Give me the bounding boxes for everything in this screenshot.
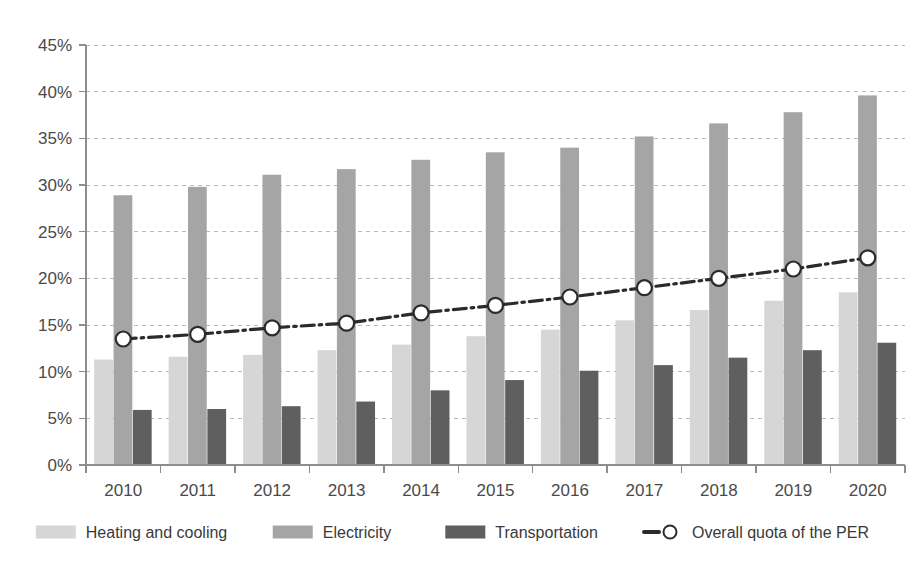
x-axis-tick-label: 2012 (253, 481, 291, 500)
bar-group (690, 123, 747, 465)
bar (654, 365, 673, 465)
y-axis-tick-label: 45% (38, 36, 72, 55)
bar (560, 148, 579, 465)
y-axis-tick-label: 30% (38, 176, 72, 195)
bar (318, 350, 337, 465)
legend-label: Overall quota of the PER (692, 524, 869, 541)
bar (94, 360, 113, 465)
chart-legend: Heating and coolingElectricityTransporta… (36, 524, 869, 541)
y-axis-tick-label: 20% (38, 269, 72, 288)
x-axis-tick-label: 2010 (104, 481, 142, 500)
y-axis-tick-label: 0% (47, 456, 72, 475)
chart-canvas: 0%5%10%15%20%25%30%35%40%45% 20102011201… (0, 0, 921, 569)
bar-group (764, 112, 821, 465)
bar (392, 345, 411, 465)
y-axis-tick-label: 35% (38, 129, 72, 148)
x-axis-tick-label: 2017 (625, 481, 663, 500)
quota-data-point (414, 305, 429, 320)
bar (114, 195, 133, 465)
bar (466, 336, 485, 465)
legend-item[interactable]: Electricity (273, 524, 391, 541)
x-axis-tick-label: 2019 (774, 481, 812, 500)
quota-data-point (116, 332, 131, 347)
bar (803, 350, 822, 465)
bar-group (839, 95, 896, 465)
bar-series-group (94, 95, 896, 465)
x-axis-tick-label: 2018 (700, 481, 738, 500)
bar (690, 310, 709, 465)
bar (729, 358, 748, 465)
bar (541, 330, 560, 465)
x-axis (86, 465, 905, 473)
y-axis-tick-label: 40% (38, 83, 72, 102)
bar (431, 390, 450, 465)
bar-group (94, 195, 151, 465)
bar (615, 320, 634, 465)
y-axis-tick-label: 10% (38, 363, 72, 382)
y-axis-tick-label: 5% (47, 409, 72, 428)
bar (784, 112, 803, 465)
x-axis-tick-label: 2013 (328, 481, 366, 500)
bar (282, 406, 301, 465)
quota-data-point (637, 280, 652, 295)
quota-data-point (488, 298, 503, 313)
quota-data-point (711, 271, 726, 286)
legend-swatch (36, 526, 76, 539)
quota-data-point (562, 290, 577, 305)
legend-swatch (445, 526, 485, 539)
y-axis-tick-label: 25% (38, 223, 72, 242)
bar (356, 402, 375, 465)
bar (877, 343, 896, 465)
bar-group (541, 148, 598, 465)
quota-data-point (339, 316, 354, 331)
legend-item[interactable]: Overall quota of the PER (644, 524, 869, 541)
bar (207, 409, 226, 465)
bar (635, 136, 654, 465)
x-axis-tick-label: 2014 (402, 481, 440, 500)
legend-item[interactable]: Heating and cooling (36, 524, 227, 541)
bar (505, 380, 524, 465)
bar (133, 410, 152, 465)
bar (764, 301, 783, 465)
bar (169, 357, 188, 465)
legend-label: Heating and cooling (86, 524, 227, 541)
legend-item[interactable]: Transportation (445, 524, 598, 541)
bar (839, 292, 858, 465)
x-axis-tick-labels: 2010201120122013201420152016201720182019… (104, 481, 886, 500)
x-axis-tick-label: 2011 (179, 481, 216, 500)
legend-swatch (273, 526, 313, 539)
bar (580, 371, 599, 465)
quota-data-point (265, 320, 280, 335)
quota-data-point (190, 327, 205, 342)
y-axis-tick-label: 15% (38, 316, 72, 335)
chart-container: 0%5%10%15%20%25%30%35%40%45% 20102011201… (0, 0, 921, 569)
bar (243, 355, 262, 465)
bar (858, 95, 877, 465)
y-axis (79, 45, 86, 465)
legend-line-marker (664, 526, 677, 539)
legend-label: Transportation (495, 524, 598, 541)
legend-label: Electricity (323, 524, 391, 541)
quota-data-point (860, 250, 875, 265)
x-axis-tick-label: 2016 (551, 481, 589, 500)
quota-data-point (786, 262, 801, 277)
x-axis-tick-label: 2015 (477, 481, 515, 500)
bar (709, 123, 728, 465)
y-axis-tick-labels: 0%5%10%15%20%25%30%35%40%45% (38, 36, 72, 475)
x-axis-tick-label: 2020 (849, 481, 887, 500)
bar-group (615, 136, 672, 465)
